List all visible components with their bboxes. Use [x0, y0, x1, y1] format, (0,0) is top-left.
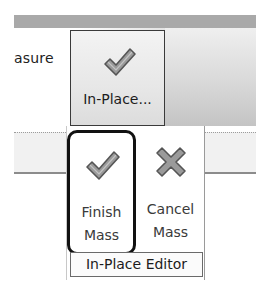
- in-place-button-label: In-Place...: [71, 91, 164, 107]
- ribbon-panel-area-right: [165, 28, 256, 126]
- finish-mass-label-line2: Mass: [70, 224, 133, 247]
- cancel-mass-button[interactable]: Cancel Mass: [136, 130, 205, 255]
- panel-title: In-Place Editor: [70, 252, 203, 277]
- checkmark-icon: [83, 147, 121, 183]
- ribbon-lower-strip-left: [14, 132, 66, 174]
- cancel-mass-label-line2: Mass: [136, 221, 205, 244]
- checkmark-icon: [101, 45, 137, 79]
- ribbon-lower-strip-right: [205, 132, 256, 174]
- in-place-button[interactable]: In-Place...: [70, 30, 165, 126]
- ribbon-title-band: [14, 15, 256, 28]
- cancel-mass-label-line1: Cancel: [136, 198, 205, 221]
- finish-mass-label-line1: Finish: [70, 201, 133, 224]
- measure-button-partial-label[interactable]: asure: [14, 50, 54, 66]
- in-place-editor-panel: Finish Mass Cancel Mass In-Place Editor: [66, 126, 205, 280]
- cancel-mass-label: Cancel Mass: [136, 198, 205, 244]
- finish-mass-button[interactable]: Finish Mass: [67, 130, 136, 255]
- x-icon: [152, 144, 190, 180]
- finish-mass-label: Finish Mass: [70, 201, 133, 247]
- revit-ribbon-fragment: asure In-Place... Finish Mass Cancel: [0, 0, 269, 283]
